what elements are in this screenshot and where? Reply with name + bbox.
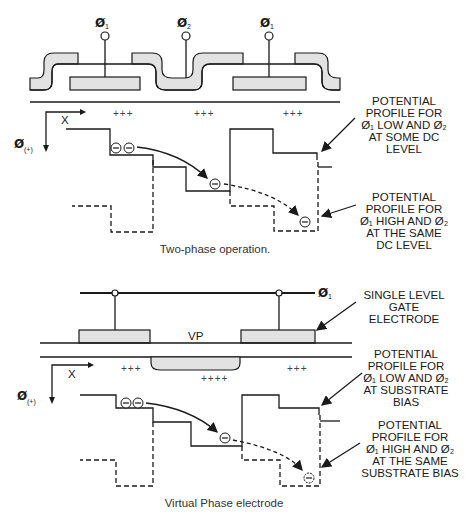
phi-arrow-icon (43, 145, 49, 152)
phi2-label: Ø (177, 16, 187, 30)
svg-text:2: 2 (187, 23, 191, 30)
ccd-diagram: Ø 1 Ø 2 Ø 1 +++ +++ +++ X Ø (+) POTENTIA… (0, 0, 475, 522)
two-phase-electrode-labels: Ø 1 Ø 2 Ø 1 (95, 16, 274, 30)
svg-text:+++: +++ (287, 363, 308, 374)
svg-text:PROFILE FOR: PROFILE FOR (372, 431, 449, 443)
svg-text:Ø₁ HIGH AND Ø₂: Ø₁ HIGH AND Ø₂ (360, 215, 448, 227)
phi1-label-right: Ø (260, 16, 270, 30)
svg-text:POTENTIAL: POTENTIAL (372, 191, 437, 203)
svg-text:SUBSTRATE BIAS: SUBSTRATE BIAS (361, 467, 459, 479)
virtual-phase-caption: Virtual Phase electrode (165, 497, 284, 509)
svg-text:AT THE SAME: AT THE SAME (366, 227, 442, 239)
phi1-label-left: Ø (95, 16, 105, 30)
svg-text:LEVEL: LEVEL (386, 143, 422, 155)
svg-text:POTENTIAL: POTENTIAL (374, 348, 439, 360)
svg-text:+++: +++ (194, 108, 215, 119)
two-phase-caption: Two-phase operation. (160, 243, 271, 255)
svg-text:1: 1 (105, 23, 109, 30)
svg-text:PROFILE FOR: PROFILE FOR (366, 203, 443, 215)
svg-text:1: 1 (328, 293, 332, 300)
svg-text:PROFILE FOR: PROFILE FOR (368, 360, 445, 372)
svg-text:Ø₁ HIGH AND Ø₂: Ø₁ HIGH AND Ø₂ (366, 443, 454, 455)
phi-arrow-icon (49, 397, 55, 404)
svg-text:POTENTIAL: POTENTIAL (372, 95, 437, 107)
phi1-clock-label: Ø (318, 286, 328, 300)
svg-text:Ø: Ø (17, 389, 27, 403)
svg-text:Ø: Ø (14, 137, 24, 151)
svg-text:AT SOME DC: AT SOME DC (369, 131, 440, 143)
virtual-phase-annotations: SINGLE LEVEL GATE ELECTRODE POTENTIAL PR… (317, 289, 459, 479)
virtual-phase-electrons (121, 398, 314, 483)
svg-text:1: 1 (270, 23, 274, 30)
svg-text:PROFILE FOR: PROFILE FOR (366, 107, 443, 119)
svg-text:+++: +++ (283, 108, 304, 119)
svg-text:BIAS: BIAS (393, 396, 420, 408)
svg-text:GATE: GATE (389, 301, 420, 313)
svg-text:X: X (61, 114, 69, 126)
svg-text:(+): (+) (24, 146, 33, 154)
svg-text:Ø₁ LOW AND Ø₂: Ø₁ LOW AND Ø₂ (363, 372, 449, 384)
virtual-phase-potential-profile-low (80, 395, 340, 446)
svg-text:+++: +++ (121, 363, 142, 374)
two-phase-gate-structure (30, 32, 340, 102)
two-phase-annotations: POTENTIAL PROFILE FOR Ø₁ LOW AND Ø₂ AT S… (322, 95, 448, 251)
two-phase-potential-profile-high (72, 160, 318, 232)
two-phase-charges: +++ +++ +++ (113, 108, 304, 119)
svg-text:Ø₁ LOW AND Ø₂: Ø₁ LOW AND Ø₂ (361, 119, 447, 131)
svg-text:SINGLE LEVEL: SINGLE LEVEL (363, 289, 445, 301)
svg-text:+++: +++ (113, 108, 134, 119)
svg-text:X: X (68, 368, 76, 380)
x-arrow-icon (80, 109, 86, 115)
two-phase-axes: X Ø (+) (14, 109, 86, 154)
svg-text:ELECTRODE: ELECTRODE (369, 313, 440, 325)
svg-text:DC LEVEL: DC LEVEL (376, 239, 432, 251)
svg-text:(+): (+) (27, 398, 36, 406)
svg-text:++++: ++++ (201, 373, 228, 384)
virtual-phase-axes: X Ø (+) (17, 362, 94, 406)
virtual-phase-potential-profile-high (80, 415, 320, 486)
svg-text:POTENTIAL: POTENTIAL (378, 419, 443, 431)
svg-text:AT THE SAME: AT THE SAME (372, 455, 448, 467)
two-phase-potential-profile-low (66, 129, 332, 191)
x-arrow-icon (88, 362, 94, 368)
vp-label: VP (188, 330, 204, 342)
svg-text:AT SUBSTRATE: AT SUBSTRATE (364, 384, 449, 396)
